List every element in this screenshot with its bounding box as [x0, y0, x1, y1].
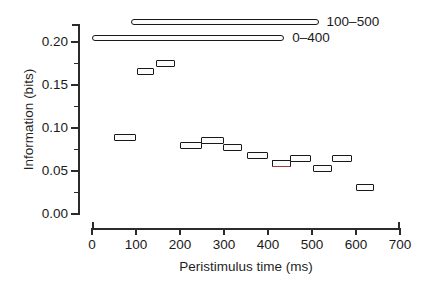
- x-axis-tick: [135, 228, 137, 235]
- x-axis-tick-label: 400: [248, 238, 288, 252]
- y-axis-minor-tick: [74, 149, 79, 150]
- x-axis-tick: [179, 228, 181, 235]
- x-axis-tick: [399, 228, 401, 235]
- x-axis-tick-label: 100: [116, 238, 156, 252]
- data-bar: [180, 142, 202, 149]
- x-axis-tick: [355, 228, 357, 235]
- x-axis-tick: [267, 228, 269, 235]
- y-axis-tick: [71, 84, 79, 86]
- y-axis-minor-tick: [74, 192, 79, 193]
- y-axis-tick: [71, 170, 79, 172]
- reference-span-label: 0–400: [292, 31, 330, 45]
- x-axis-title: Peristimulus time (ms): [92, 259, 400, 274]
- information-vs-peristimulus-time-chart: 0.000.050.100.150.2001002003004005006007…: [0, 0, 426, 284]
- y-axis-tick: [71, 41, 79, 43]
- x-axis-tick: [91, 228, 93, 235]
- data-bar: [332, 155, 352, 162]
- y-axis-tick: [71, 213, 79, 215]
- y-axis-tick: [71, 127, 79, 129]
- x-axis-tick-label: 600: [336, 238, 376, 252]
- reference-span-bar: [131, 19, 319, 25]
- data-bar: [223, 144, 241, 151]
- x-axis-tick-label: 700: [380, 238, 420, 252]
- x-axis-tick: [223, 228, 225, 235]
- data-bar: [290, 155, 311, 162]
- reference-span-label: 100–500: [327, 15, 380, 29]
- data-bar: [114, 134, 136, 141]
- y-axis-line: [78, 24, 80, 215]
- data-bar: [137, 68, 155, 75]
- data-bar: [272, 160, 291, 167]
- x-axis-tick-label: 0: [72, 238, 112, 252]
- x-axis-tick-label: 300: [204, 238, 244, 252]
- data-bar: [313, 165, 331, 172]
- reference-span-bar: [92, 35, 284, 41]
- x-axis-tick-label: 200: [160, 238, 200, 252]
- y-axis-minor-tick: [74, 106, 79, 107]
- x-axis-line: [92, 228, 400, 230]
- data-bar: [201, 137, 224, 144]
- x-axis-tick: [311, 228, 313, 235]
- data-bar: [156, 60, 175, 67]
- x-axis-tick-label: 500: [292, 238, 332, 252]
- y-axis-title: Information (bits): [21, 30, 36, 210]
- y-axis-minor-tick: [74, 63, 79, 64]
- data-bar: [247, 152, 268, 159]
- data-bar: [356, 184, 374, 191]
- y-axis-top-cap: [72, 24, 79, 26]
- plot-area: 0.000.050.100.150.2001002003004005006007…: [0, 0, 426, 284]
